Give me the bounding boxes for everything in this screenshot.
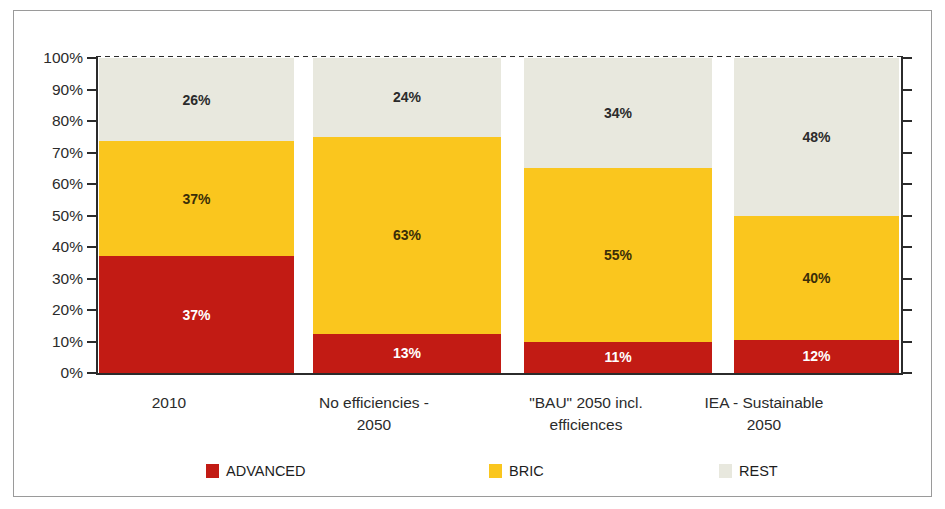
category-label-line: 2050 [639,414,889,436]
legend-item-advanced[interactable]: ADVANCED [206,463,306,479]
legend-swatch-icon [719,464,732,478]
bar-segment-bric[interactable]: 63% [313,137,501,334]
y-tick-left [87,341,97,343]
legend-item-rest[interactable]: REST [719,463,778,479]
chart-frame: 0%10%20%30%40%50%60%70%80%90%100% 37%37%… [13,10,932,497]
y-tick-left [87,215,97,217]
y-tick-right [902,89,912,91]
y-tick-right [902,372,912,374]
y-tick-right [902,215,912,217]
category-label-line: IEA - Sustainable [639,392,889,414]
y-axis-label: 0% [61,364,83,382]
chart-legend: ADVANCEDBRICREST [14,463,931,485]
y-axis-label: 80% [52,112,83,130]
y-axis-label: 40% [52,238,83,256]
stacked-bar[interactable]: 13%63%24% [313,58,501,373]
plot-area: 0%10%20%30%40%50%60%70%80%90%100% 37%37%… [96,58,903,373]
legend-swatch-icon [206,464,219,478]
bar-segment-advanced[interactable]: 13% [313,334,501,373]
y-tick-right [902,120,912,122]
y-axis-label: 50% [52,207,83,225]
x-axis-category-label: IEA - Sustainable2050 [639,392,889,436]
plot-top-line [96,56,903,57]
y-axis-label: 30% [52,270,83,288]
bar-segment-bric[interactable]: 37% [99,141,294,256]
y-axis-label: 100% [43,49,83,67]
y-axis-label: 60% [52,175,83,193]
y-tick-left [87,89,97,91]
y-tick-right [902,183,912,185]
y-tick-right [902,57,912,59]
y-tick-left [87,246,97,248]
legend-item-bric[interactable]: BRIC [489,463,544,479]
bar-segment-bric[interactable]: 55% [524,168,712,341]
legend-label: ADVANCED [226,463,306,479]
y-axis-label: 70% [52,144,83,162]
y-tick-left [87,278,97,280]
stacked-bar[interactable]: 37%37%26% [99,58,294,373]
bar-segment-advanced[interactable]: 12% [734,340,899,373]
bar-segment-rest[interactable]: 34% [524,58,712,168]
bar-segment-rest[interactable]: 26% [99,58,294,141]
legend-label: REST [739,463,778,479]
y-tick-left [87,57,97,59]
y-axis-label: 90% [52,81,83,99]
x-axis-line [96,373,903,375]
bar-segment-rest[interactable]: 48% [734,58,899,216]
y-axis-label: 10% [52,333,83,351]
y-tick-right [902,246,912,248]
y-tick-right [902,152,912,154]
y-axis-label: 20% [52,301,83,319]
stacked-bar[interactable]: 11%55%34% [524,58,712,373]
bar-segment-advanced[interactable]: 37% [99,256,294,373]
y-tick-left [87,309,97,311]
bar-segment-rest[interactable]: 24% [313,58,501,137]
y-tick-left [87,120,97,122]
y-tick-right [902,278,912,280]
y-tick-left [87,183,97,185]
y-tick-right [902,309,912,311]
y-tick-right [902,341,912,343]
legend-label: BRIC [509,463,544,479]
bar-segment-bric[interactable]: 40% [734,216,899,340]
y-tick-left [87,152,97,154]
legend-swatch-icon [489,464,502,478]
y-tick-left [87,372,97,374]
bar-segment-advanced[interactable]: 11% [524,342,712,374]
stacked-bar[interactable]: 12%40%48% [734,58,899,373]
